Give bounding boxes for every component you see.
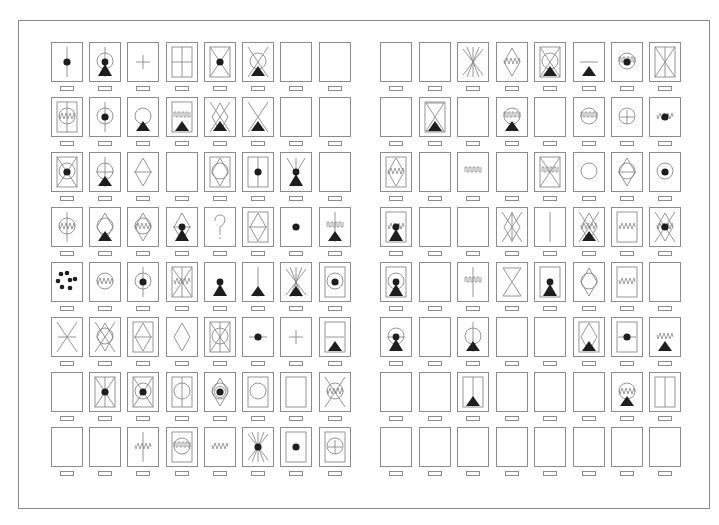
symbol-card-face[interactable] <box>280 317 312 357</box>
symbol-card-face[interactable] <box>649 317 681 357</box>
symbol-card-face[interactable] <box>280 372 312 412</box>
symbol-card[interactable] <box>496 317 528 367</box>
symbol-card[interactable] <box>534 97 566 147</box>
symbol-card-face[interactable] <box>457 372 489 412</box>
symbol-card-face[interactable] <box>204 372 236 412</box>
symbol-card[interactable] <box>534 372 566 422</box>
symbol-card[interactable] <box>573 317 605 367</box>
blank-card-face[interactable] <box>280 97 312 137</box>
symbol-card[interactable] <box>380 97 412 147</box>
symbol-card-face[interactable] <box>534 262 566 302</box>
symbol-card-face[interactable] <box>204 427 236 467</box>
symbol-card-face[interactable] <box>319 262 351 302</box>
symbol-card-face[interactable] <box>496 207 528 247</box>
symbol-card-face[interactable] <box>204 317 236 357</box>
symbol-card-face[interactable] <box>166 97 198 137</box>
symbol-card-face[interactable] <box>127 97 159 137</box>
blank-card-face[interactable] <box>280 42 312 82</box>
symbol-card-face[interactable] <box>242 152 274 192</box>
symbol-card-face[interactable] <box>649 207 681 247</box>
symbol-card[interactable] <box>319 152 351 202</box>
symbol-card[interactable] <box>534 317 566 367</box>
symbol-card[interactable] <box>419 97 451 147</box>
symbol-card[interactable] <box>51 317 83 367</box>
symbol-card[interactable] <box>242 152 274 202</box>
blank-card-face[interactable] <box>380 42 412 82</box>
blank-card-face[interactable] <box>457 207 489 247</box>
symbol-card[interactable] <box>166 42 198 92</box>
symbol-card[interactable] <box>51 372 83 422</box>
symbol-card[interactable] <box>496 262 528 312</box>
blank-card-face[interactable] <box>419 152 451 192</box>
symbol-card-face[interactable] <box>89 262 121 302</box>
symbol-card-face[interactable] <box>89 97 121 137</box>
symbol-card-face[interactable] <box>534 207 566 247</box>
symbol-card[interactable] <box>204 262 236 312</box>
symbol-card[interactable] <box>51 427 83 477</box>
symbol-card[interactable] <box>89 427 121 477</box>
symbol-card[interactable] <box>89 42 121 92</box>
symbol-card[interactable] <box>204 152 236 202</box>
symbol-card[interactable] <box>419 42 451 92</box>
symbol-card-face[interactable] <box>242 42 274 82</box>
symbol-card[interactable] <box>204 97 236 147</box>
symbol-card[interactable] <box>419 427 451 477</box>
symbol-card[interactable] <box>51 262 83 312</box>
symbol-card[interactable] <box>166 152 198 202</box>
symbol-card[interactable] <box>649 152 681 202</box>
symbol-card[interactable] <box>380 262 412 312</box>
symbol-card[interactable] <box>419 207 451 257</box>
symbol-card-face[interactable] <box>242 372 274 412</box>
blank-card-face[interactable] <box>649 427 681 467</box>
symbol-card[interactable] <box>611 207 643 257</box>
symbol-card[interactable] <box>51 97 83 147</box>
symbol-card[interactable] <box>127 317 159 367</box>
symbol-card-face[interactable] <box>534 42 566 82</box>
symbol-card[interactable] <box>319 97 351 147</box>
symbol-card[interactable] <box>649 42 681 92</box>
blank-card-face[interactable] <box>319 42 351 82</box>
symbol-card-face[interactable] <box>611 42 643 82</box>
symbol-card[interactable] <box>204 317 236 367</box>
symbol-card-face[interactable] <box>573 262 605 302</box>
symbol-card-face[interactable] <box>204 42 236 82</box>
symbol-card[interactable] <box>380 207 412 257</box>
symbol-card[interactable] <box>127 152 159 202</box>
blank-card-face[interactable] <box>534 97 566 137</box>
symbol-card[interactable] <box>419 372 451 422</box>
symbol-card[interactable] <box>573 262 605 312</box>
blank-card-face[interactable] <box>573 427 605 467</box>
symbol-card-face[interactable] <box>127 262 159 302</box>
symbol-card-face[interactable] <box>242 207 274 247</box>
blank-card-face[interactable] <box>419 372 451 412</box>
blank-card-face[interactable] <box>380 372 412 412</box>
symbol-card-face[interactable] <box>649 372 681 412</box>
symbol-card[interactable] <box>319 427 351 477</box>
symbol-card-face[interactable] <box>457 152 489 192</box>
symbol-card-face[interactable] <box>204 207 236 247</box>
symbol-card[interactable] <box>166 317 198 367</box>
symbol-card[interactable] <box>457 317 489 367</box>
symbol-card-face[interactable] <box>380 207 412 247</box>
symbol-card[interactable] <box>496 427 528 477</box>
symbol-card[interactable] <box>280 427 312 477</box>
symbol-card[interactable] <box>319 207 351 257</box>
symbol-card[interactable] <box>457 152 489 202</box>
blank-card-face[interactable] <box>457 427 489 467</box>
symbol-card[interactable] <box>89 97 121 147</box>
symbol-card-face[interactable] <box>319 372 351 412</box>
symbol-card-face[interactable] <box>204 262 236 302</box>
symbol-card-face[interactable] <box>127 152 159 192</box>
symbol-card[interactable] <box>611 42 643 92</box>
symbol-card[interactable] <box>242 262 274 312</box>
blank-card-face[interactable] <box>319 97 351 137</box>
symbol-card-face[interactable] <box>573 152 605 192</box>
blank-card-face[interactable] <box>573 372 605 412</box>
symbol-card-face[interactable] <box>166 42 198 82</box>
symbol-card[interactable] <box>51 207 83 257</box>
symbol-card-face[interactable] <box>496 42 528 82</box>
blank-card-face[interactable] <box>457 97 489 137</box>
symbol-card-face[interactable] <box>573 207 605 247</box>
symbol-card[interactable] <box>611 372 643 422</box>
symbol-card-face[interactable] <box>496 97 528 137</box>
